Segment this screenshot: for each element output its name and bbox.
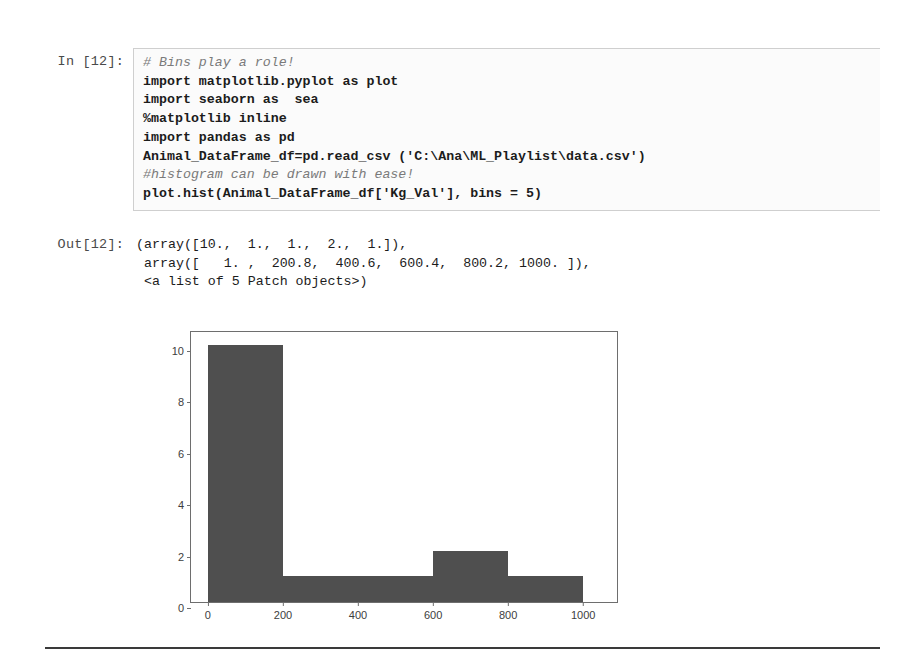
output-line: <a list of 5 Patch objects>) [136, 273, 836, 292]
x-axis-tick-label: 1000 [571, 602, 595, 621]
x-axis-tick-label: 400 [349, 602, 367, 621]
code-line: #histogram can be drawn with ease! [143, 166, 872, 185]
x-axis-tick-label: 800 [499, 602, 517, 621]
x-axis-tick-label: 600 [424, 602, 442, 621]
y-axis-tick-label: 4 [178, 499, 191, 511]
histogram-bar [208, 345, 283, 602]
y-axis-tick-label: 6 [178, 448, 191, 460]
x-axis-tick-label: 200 [274, 602, 292, 621]
histogram-bars [191, 332, 617, 602]
y-axis-tick-label: 2 [178, 551, 191, 563]
histogram-bar [358, 576, 433, 602]
input-prompt-label: In [12]: [40, 54, 124, 69]
notebook-cell-area: In [12]: # Bins play a role!import matpl… [0, 0, 908, 662]
y-axis-tick-label: 10 [172, 345, 191, 357]
output-line: array([ 1. , 200.8, 400.6, 600.4, 800.2,… [136, 255, 836, 274]
output-line: (array([10., 1., 1., 2., 1.]), [136, 236, 836, 255]
code-line: plot.hist(Animal_DataFrame_df['Kg_Val'],… [143, 185, 872, 204]
code-line: import seaborn as sea [143, 91, 872, 110]
code-input-editor[interactable]: # Bins play a role!import matplotlib.pyp… [133, 48, 880, 211]
histogram-bar [508, 576, 583, 602]
x-axis-tick-label: 0 [205, 602, 211, 621]
text-output-block: (array([10., 1., 1., 2., 1.]), array([ 1… [136, 236, 836, 292]
y-axis-tick-label: 8 [178, 396, 191, 408]
code-line: import pandas as pd [143, 129, 872, 148]
cell-divider-rule [45, 647, 880, 649]
output-prompt-label: Out[12]: [40, 237, 124, 252]
y-axis-tick-label: 0 [178, 602, 191, 614]
code-line: %matplotlib inline [143, 110, 872, 129]
histogram-bar [283, 576, 358, 602]
code-line: Animal_DataFrame_df=pd.read_csv ('C:\Ana… [143, 148, 872, 167]
plot-axes-frame: 024681002004006008001000 [190, 331, 618, 603]
code-line: import matplotlib.pyplot as plot [143, 73, 872, 92]
histogram-figure: 024681002004006008001000 [150, 322, 640, 632]
histogram-bar [433, 551, 508, 602]
code-line: # Bins play a role! [143, 54, 872, 73]
